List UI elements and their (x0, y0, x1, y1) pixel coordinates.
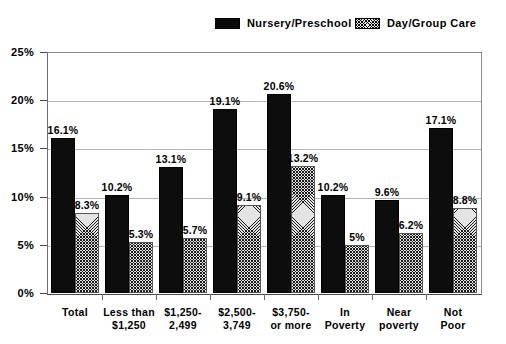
chart-legend: Nursery/Preschool Day/Group Care (0, 10, 506, 34)
y-tick-label: 20% (11, 95, 34, 105)
legend-label-day-group-care: Day/Group Care (387, 17, 476, 29)
y-tick-mark (40, 100, 47, 101)
y-tick-label: 10% (11, 192, 34, 202)
bar-value-label: 6.2% (395, 220, 427, 231)
y-tick-mark (40, 245, 47, 246)
bars-layer: 16.1%8.3%10.2%5.3%13.1%5.7%19.1%9.1%20.6… (48, 52, 480, 293)
x-tick-mark (264, 294, 265, 300)
bar-value-label: 13.1% (155, 154, 187, 165)
y-tick-label: 15% (11, 143, 34, 153)
bar-value-label: 13.2% (287, 153, 319, 164)
bar-value-label: 5.3% (125, 229, 157, 240)
bar-day-group-care (399, 233, 423, 293)
x-tick-label: NotPoor (418, 306, 488, 331)
x-tick-mark (102, 294, 103, 300)
x-tick-label-line: Poor (418, 319, 488, 332)
bar-day-group-care (183, 238, 207, 293)
bar-day-group-care (453, 208, 477, 293)
bar-nursery-preschool (321, 195, 345, 293)
bar-nursery-preschool (267, 94, 291, 293)
bar-value-label: 16.1% (47, 125, 79, 136)
x-axis: TotalLess than$1,250$1,250-2,499$2,500-3… (0, 293, 506, 344)
y-tick-label: 25% (11, 47, 34, 57)
x-tick-mark (372, 294, 373, 300)
y-tick-mark (40, 52, 47, 53)
bar-value-label: 9.6% (371, 187, 403, 198)
bar-value-label: 5.7% (179, 225, 211, 236)
x-tick-mark (156, 294, 157, 300)
bar-nursery-preschool (375, 200, 399, 293)
legend-label-nursery-preschool: Nursery/Preschool (247, 17, 352, 29)
x-tick-mark (210, 294, 211, 300)
y-tick-mark (40, 148, 47, 149)
bar-value-label: 9.1% (233, 192, 265, 203)
legend-item-nursery-preschool: Nursery/Preschool (215, 14, 352, 32)
bar-day-group-care (75, 213, 99, 293)
bar-day-group-care (237, 205, 261, 293)
solid-black-swatch-icon (215, 18, 240, 29)
bar-nursery-preschool (105, 195, 129, 293)
bar-value-label: 10.2% (317, 182, 349, 193)
y-tick-mark (40, 197, 47, 198)
bar-value-label: 17.1% (425, 115, 457, 126)
bar-value-label: 20.6% (263, 81, 295, 92)
bar-nursery-preschool (429, 128, 453, 293)
bar-value-label: 8.8% (449, 195, 481, 206)
bar-value-label: 8.3% (71, 200, 103, 211)
bar-day-group-care (129, 242, 153, 293)
bar-day-group-care (345, 245, 369, 293)
y-tick-label: 5% (18, 240, 35, 250)
x-tick-mark (426, 294, 427, 300)
bar-value-label: 5% (341, 232, 373, 243)
bar-nursery-preschool (51, 138, 75, 293)
x-tick-label-line: Not (418, 306, 488, 319)
hatched-swatch-icon (355, 18, 380, 29)
legend-item-day-group-care: Day/Group Care (355, 14, 476, 32)
x-tick-mark (318, 294, 319, 300)
bar-day-group-care (291, 166, 315, 293)
bar-value-label: 10.2% (101, 182, 133, 193)
bar-value-label: 19.1% (209, 96, 241, 107)
